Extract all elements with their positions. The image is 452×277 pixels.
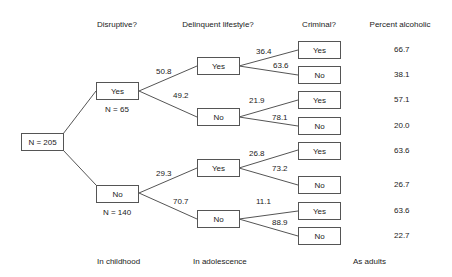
tree-connectors <box>0 0 452 277</box>
footer-adults: As adults <box>353 257 386 266</box>
disruptive-no-n: N = 140 <box>103 208 131 217</box>
delinquent-node: No <box>197 210 240 228</box>
criminal-node: No <box>298 66 341 84</box>
header-disruptive: Disruptive? <box>97 20 137 29</box>
delinquent-pct: 29.3 <box>156 169 172 178</box>
footer-childhood: In childhood <box>97 257 140 266</box>
footer-adolescence: In adolescence <box>193 257 247 266</box>
delinquent-pct: 70.7 <box>173 197 189 206</box>
criminal-pct: 36.4 <box>256 47 272 56</box>
delinquent-pct: 49.2 <box>173 91 189 100</box>
criminal-pct: 21.9 <box>249 96 265 105</box>
criminal-node: Yes <box>298 202 341 220</box>
disruptive-yes-n: N = 65 <box>105 105 129 114</box>
alcoholic-value: 22.7 <box>394 231 410 240</box>
delinquent-node: No <box>197 108 240 126</box>
delinquent-node: Yes <box>197 57 240 75</box>
alcoholic-value: 26.7 <box>394 180 410 189</box>
alcoholic-value: 20.0 <box>394 121 410 130</box>
delinquent-node: Yes <box>197 159 240 177</box>
root-node: N = 205 <box>21 133 64 151</box>
criminal-pct: 63.6 <box>273 61 289 70</box>
delinquent-pct: 50.8 <box>156 67 172 76</box>
criminal-pct: 11.1 <box>256 197 271 206</box>
header-percent-alcoholic: Percent alcoholic <box>370 20 431 29</box>
criminal-node: Yes <box>298 41 341 59</box>
criminal-node: Yes <box>298 91 341 109</box>
disruptive-yes-node: Yes <box>96 82 139 100</box>
criminal-pct: 88.9 <box>272 218 288 227</box>
disruptive-no-node: No <box>96 185 139 203</box>
header-criminal: Criminal? <box>302 20 336 29</box>
criminal-node: No <box>298 117 341 135</box>
alcoholic-value: 38.1 <box>394 70 410 79</box>
criminal-node: No <box>298 176 341 194</box>
alcoholic-value: 63.6 <box>394 206 410 215</box>
criminal-pct: 78.1 <box>272 113 288 122</box>
criminal-pct: 26.8 <box>249 149 265 158</box>
header-delinquent: Delinquent lifestyle? <box>182 20 254 29</box>
criminal-node: No <box>298 227 341 245</box>
alcoholic-value: 57.1 <box>394 95 410 104</box>
alcoholic-value: 66.7 <box>394 45 410 54</box>
criminal-node: Yes <box>298 142 341 160</box>
alcoholic-value: 63.6 <box>394 146 410 155</box>
criminal-pct: 73.2 <box>272 164 288 173</box>
